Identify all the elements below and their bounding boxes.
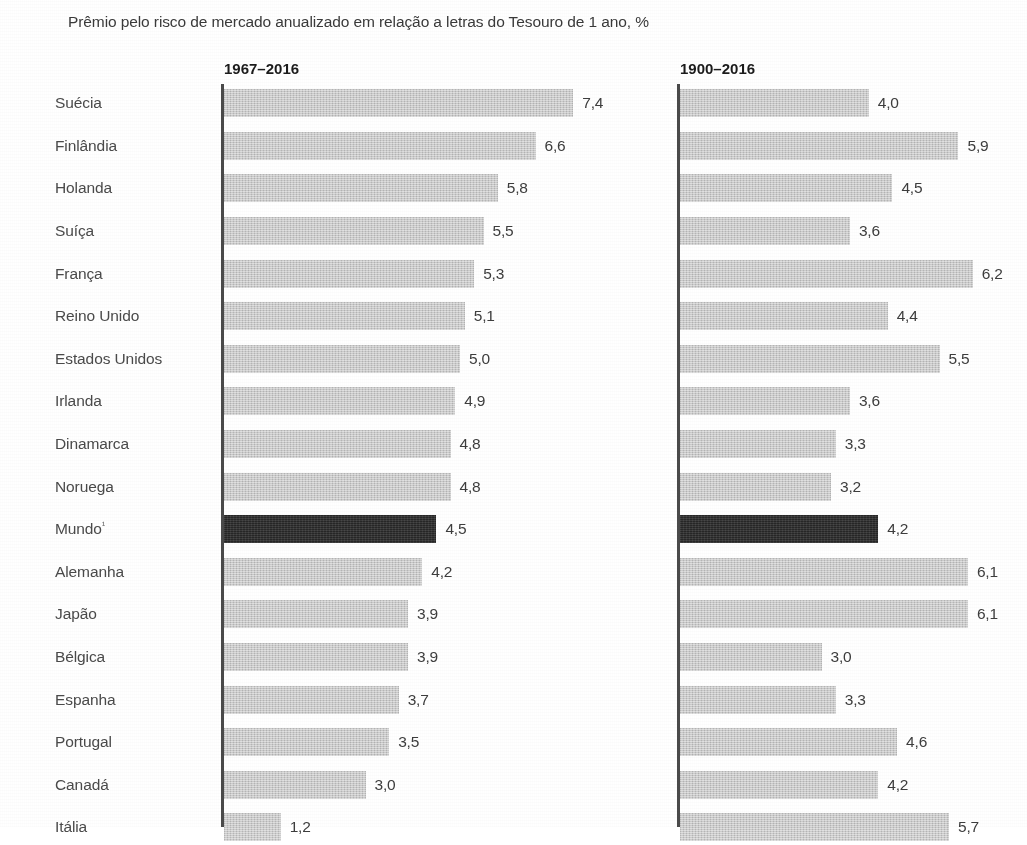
bar-value-label: 4,2 [431, 563, 452, 581]
chart-title: Prêmio pelo risco de mercado anualizado … [68, 13, 649, 31]
chart-row: Dinamarca4,83,3 [0, 423, 1027, 466]
row-label-9: Dinamarca [55, 435, 129, 453]
bar [680, 217, 850, 245]
bar-value-label: 3,6 [859, 392, 880, 410]
chart-row: Portugal3,54,6 [0, 721, 1027, 764]
bar-group-1900-2016: 4,4 [680, 302, 918, 330]
row-label-3: Holanda [55, 179, 112, 197]
bar [680, 302, 888, 330]
bar-group-1900-2016: 6,2 [680, 260, 1003, 288]
bar [224, 260, 474, 288]
bar [224, 387, 455, 415]
row-label-2: Finlândia [55, 137, 117, 155]
bar-value-label: 4,6 [906, 733, 927, 751]
bar [680, 600, 968, 628]
bar-value-label: 5,7 [958, 818, 979, 836]
bar-value-label: 5,3 [483, 265, 504, 283]
chart-row: Suécia7,44,0 [0, 82, 1027, 125]
chart-row: Espanha3,73,3 [0, 678, 1027, 721]
row-label-6: Reino Unido [55, 307, 139, 325]
row-label-14: Bélgica [55, 648, 105, 666]
bar [224, 515, 436, 543]
panel-header-1900-2016: 1900–2016 [680, 60, 755, 77]
chart-row: Suíça5,53,6 [0, 210, 1027, 253]
bar-group-1900-2016: 5,9 [680, 132, 988, 160]
row-label-13: Japão [55, 605, 97, 623]
bar-group-1967-2016: 4,2 [224, 558, 452, 586]
row-label-1: Suécia [55, 94, 102, 112]
bar-group-1900-2016: 4,2 [680, 771, 908, 799]
bar-value-label: 4,8 [460, 435, 481, 453]
bar [680, 728, 897, 756]
bar [680, 174, 892, 202]
bar-group-1967-2016: 3,7 [224, 686, 429, 714]
bar-value-label: 6,2 [982, 265, 1003, 283]
bar [224, 345, 460, 373]
bar-group-1900-2016: 6,1 [680, 600, 998, 628]
chart-row: Irlanda4,93,6 [0, 380, 1027, 423]
row-label-8: Irlanda [55, 392, 102, 410]
bar-value-label: 5,0 [469, 350, 490, 368]
bar-group-1900-2016: 3,2 [680, 473, 861, 501]
bar [224, 473, 451, 501]
bar-group-1900-2016: 4,2 [680, 515, 908, 543]
bar [680, 132, 958, 160]
row-label-12: Alemanha [55, 563, 124, 581]
chart-row: Finlândia6,65,9 [0, 125, 1027, 168]
bar [680, 813, 949, 841]
bar-value-label: 4,8 [460, 478, 481, 496]
bar-value-label: 4,2 [887, 776, 908, 794]
bar [680, 643, 822, 671]
bar-group-1900-2016: 3,6 [680, 387, 880, 415]
bar [224, 132, 536, 160]
bar-value-label: 6,1 [977, 563, 998, 581]
bar [224, 643, 408, 671]
bar-value-label: 3,5 [398, 733, 419, 751]
row-label-4: Suíça [55, 222, 94, 240]
bar-value-label: 3,2 [840, 478, 861, 496]
chart-row: Itália1,25,7 [0, 806, 1027, 845]
bar-value-label: 3,9 [417, 648, 438, 666]
bar-value-label: 4,9 [464, 392, 485, 410]
bar-group-1967-2016: 4,8 [224, 473, 481, 501]
bar [224, 430, 451, 458]
bar-group-1967-2016: 5,5 [224, 217, 514, 245]
bar [680, 558, 968, 586]
bar-value-label: 3,3 [845, 691, 866, 709]
bar-group-1967-2016: 3,9 [224, 643, 438, 671]
bar-value-label: 4,5 [901, 179, 922, 197]
row-label-16: Portugal [55, 733, 112, 751]
bar-value-label: 5,8 [507, 179, 528, 197]
row-label-11: Mundo¹ [55, 520, 105, 538]
bar-value-label: 4,2 [887, 520, 908, 538]
chart-row: Bélgica3,93,0 [0, 636, 1027, 679]
row-label-15: Espanha [55, 691, 116, 709]
row-label-18: Itália [55, 818, 87, 836]
bar [224, 771, 366, 799]
chart-row: Mundo¹4,54,2 [0, 508, 1027, 551]
chart-row: Holanda5,84,5 [0, 167, 1027, 210]
chart-row: Alemanha4,26,1 [0, 551, 1027, 594]
bar [680, 473, 831, 501]
row-label-7: Estados Unidos [55, 350, 162, 368]
bar-group-1900-2016: 4,6 [680, 728, 927, 756]
chart-row: Reino Unido5,14,4 [0, 295, 1027, 338]
bar-value-label: 6,6 [545, 137, 566, 155]
footnote-marker: ¹ [102, 520, 105, 530]
bar-value-label: 5,5 [493, 222, 514, 240]
bar-group-1967-2016: 5,8 [224, 174, 528, 202]
chart-row: Canadá3,04,2 [0, 764, 1027, 807]
bar-group-1900-2016: 4,5 [680, 174, 922, 202]
chart-row: Noruega4,83,2 [0, 465, 1027, 508]
bar-value-label: 3,7 [408, 691, 429, 709]
bar-group-1900-2016: 3,3 [680, 686, 866, 714]
panel-header-1967-2016: 1967–2016 [224, 60, 299, 77]
bar-group-1900-2016: 6,1 [680, 558, 998, 586]
bar [224, 217, 484, 245]
bar-value-label: 3,0 [831, 648, 852, 666]
bar-group-1967-2016: 3,0 [224, 771, 396, 799]
bar-value-label: 6,1 [977, 605, 998, 623]
bar-group-1967-2016: 1,2 [224, 813, 311, 841]
bar [224, 813, 281, 841]
